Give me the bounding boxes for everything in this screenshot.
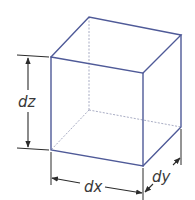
cube-diagram: dz dx dy [0, 0, 195, 200]
dy-label: dy [152, 168, 172, 186]
dz-label: dz [18, 93, 37, 111]
dy-dimension: dy [145, 129, 181, 192]
dx-dimension: dx [51, 152, 143, 200]
dx-label: dx [84, 178, 103, 196]
dz-dimension: dz [17, 55, 49, 150]
cube-edges [51, 17, 181, 166]
